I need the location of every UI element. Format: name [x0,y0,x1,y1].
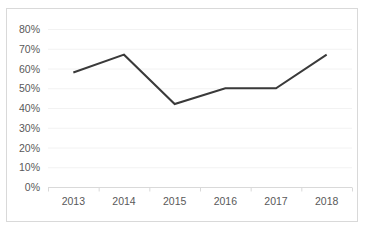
y-axis-tick-label: 10% [4,162,40,173]
y-axis-tick-label: 80% [4,24,40,35]
gridlines [48,30,352,168]
y-axis-tick-label: 0% [4,182,40,193]
x-axis-tick-label: 2013 [48,196,99,207]
axis-tick-marks [49,188,353,192]
x-axis-tick-label: 2015 [149,196,200,207]
y-axis-tick-label: 20% [4,143,40,154]
y-axis-tick-label: 70% [4,44,40,55]
y-axis-tick-label: 50% [4,83,40,94]
x-axis-tick-label: 2017 [251,196,302,207]
data-series-line [73,55,326,104]
x-axis-tick-label: 2018 [301,196,352,207]
y-axis-tick-label: 40% [4,103,40,114]
x-axis-tick-label: 2014 [99,196,150,207]
y-axis-tick-label: 60% [4,64,40,75]
y-axis-tick-label: 30% [4,123,40,134]
x-axis-tick-label: 2016 [200,196,251,207]
